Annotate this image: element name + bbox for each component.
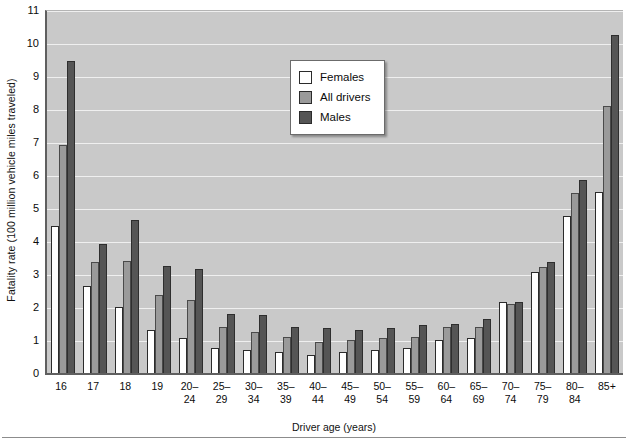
bar-males bbox=[67, 61, 75, 373]
bar-females bbox=[211, 348, 219, 373]
legend-item-label: Males bbox=[320, 111, 351, 123]
chart-legend: Females All drivers Males bbox=[290, 60, 385, 135]
bar-group bbox=[559, 11, 591, 373]
bar-males bbox=[515, 302, 523, 373]
bar-alldrivers bbox=[443, 327, 451, 373]
bar-group bbox=[495, 11, 527, 373]
bar-females bbox=[307, 355, 315, 373]
bar-group bbox=[47, 11, 79, 373]
y-axis-tick-label: 10 bbox=[27, 37, 39, 49]
x-axis-tick-labels: 1617181920– 2425– 2930– 3435– 3940– 4445… bbox=[45, 377, 623, 417]
bar-alldrivers bbox=[315, 342, 323, 373]
x-axis-line bbox=[45, 373, 623, 375]
bar-group bbox=[143, 11, 175, 373]
bar-group bbox=[463, 11, 495, 373]
bar-group bbox=[239, 11, 271, 373]
figure-bottom-rule bbox=[2, 437, 626, 438]
dark-gray-square-icon bbox=[299, 111, 312, 124]
bar-males bbox=[355, 330, 363, 373]
bar-males bbox=[195, 269, 203, 373]
bar-males bbox=[451, 324, 459, 374]
bar-alldrivers bbox=[571, 193, 579, 373]
gray-square-icon bbox=[299, 91, 312, 104]
legend-item-label: Females bbox=[320, 71, 364, 83]
y-axis-tick-label: 1 bbox=[33, 334, 39, 346]
bar-females bbox=[531, 272, 539, 373]
y-axis-tick-label: 9 bbox=[33, 70, 39, 82]
bar-alldrivers bbox=[91, 262, 99, 373]
y-axis-tick-label: 0 bbox=[33, 367, 39, 379]
bar-alldrivers bbox=[187, 300, 195, 373]
bar-alldrivers bbox=[123, 261, 131, 373]
bar-group bbox=[207, 11, 239, 373]
bar-females bbox=[595, 192, 603, 374]
x-axis-tick-label: 70– 74 bbox=[495, 377, 527, 417]
x-axis-tick-label: 19 bbox=[141, 377, 173, 417]
bar-males bbox=[291, 327, 299, 373]
bar-alldrivers bbox=[539, 267, 547, 373]
bar-alldrivers bbox=[251, 332, 259, 373]
x-axis-title: Driver age (years) bbox=[45, 421, 623, 433]
bar-females bbox=[371, 350, 379, 373]
x-axis-tick-label: 25– 29 bbox=[206, 377, 238, 417]
bar-alldrivers bbox=[475, 327, 483, 373]
bar-alldrivers bbox=[507, 304, 515, 373]
legend-item-all-drivers: All drivers bbox=[299, 87, 370, 107]
bar-females bbox=[83, 286, 91, 373]
bar-males bbox=[323, 328, 331, 373]
bar-males bbox=[611, 35, 619, 373]
fatality-rate-bar-chart: Fatality rate (100 million vehicle miles… bbox=[0, 0, 629, 445]
legend-item-females: Females bbox=[299, 67, 370, 87]
bar-alldrivers bbox=[59, 145, 67, 373]
bar-group bbox=[591, 11, 623, 373]
bar-males bbox=[547, 262, 555, 373]
legend-item-label: All drivers bbox=[320, 91, 370, 103]
bar-females bbox=[339, 352, 347, 373]
y-axis-tick-labels: 01234567891011 bbox=[18, 0, 42, 380]
bar-group bbox=[79, 11, 111, 373]
bar-females bbox=[467, 338, 475, 373]
x-axis-tick-label: 20– 24 bbox=[173, 377, 205, 417]
bar-group bbox=[527, 11, 559, 373]
y-axis-tick-label: 4 bbox=[33, 235, 39, 247]
y-axis-tick-label: 6 bbox=[33, 169, 39, 181]
bar-alldrivers bbox=[603, 106, 611, 373]
bar-males bbox=[99, 244, 107, 373]
bar-females bbox=[563, 216, 571, 373]
x-axis-tick-label: 40– 44 bbox=[302, 377, 334, 417]
y-axis-tick-label: 2 bbox=[33, 301, 39, 313]
bar-females bbox=[435, 340, 443, 373]
bar-females bbox=[115, 307, 123, 373]
bar-group bbox=[111, 11, 143, 373]
y-axis-title-text: Fatality rate (100 million vehicle miles… bbox=[5, 78, 17, 301]
y-axis-tick-label: 8 bbox=[33, 103, 39, 115]
bar-males bbox=[131, 220, 139, 373]
x-axis-tick-label: 18 bbox=[109, 377, 141, 417]
bar-alldrivers bbox=[379, 338, 387, 373]
bar-alldrivers bbox=[283, 337, 291, 373]
x-axis-tick-label: 45– 49 bbox=[334, 377, 366, 417]
bar-males bbox=[227, 314, 235, 373]
bar-alldrivers bbox=[219, 327, 227, 373]
white-square-icon bbox=[299, 71, 312, 84]
bar-alldrivers bbox=[411, 337, 419, 373]
y-axis-tick-label: 3 bbox=[33, 268, 39, 280]
bar-males bbox=[259, 315, 267, 373]
y-axis-tick-label: 5 bbox=[33, 202, 39, 214]
bar-females bbox=[275, 352, 283, 373]
x-axis-tick-label: 55– 59 bbox=[398, 377, 430, 417]
x-axis-tick-label: 85+ bbox=[591, 377, 623, 417]
x-axis-tick-label: 65– 69 bbox=[462, 377, 494, 417]
y-axis-tick-label: 11 bbox=[28, 4, 39, 16]
x-axis-tick-label: 16 bbox=[45, 377, 77, 417]
x-axis-tick-label: 80– 84 bbox=[559, 377, 591, 417]
x-axis-tick-label: 30– 34 bbox=[238, 377, 270, 417]
y-axis-tick-label: 7 bbox=[33, 136, 39, 148]
bar-males bbox=[483, 319, 491, 373]
bar-females bbox=[499, 302, 507, 373]
x-axis-tick-label: 35– 39 bbox=[270, 377, 302, 417]
x-axis-tick-label: 60– 64 bbox=[430, 377, 462, 417]
bar-group bbox=[175, 11, 207, 373]
bar-females bbox=[51, 226, 59, 373]
bar-females bbox=[147, 330, 155, 373]
